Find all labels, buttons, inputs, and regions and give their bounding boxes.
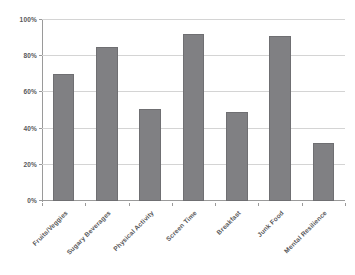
bar-slot [42,20,85,201]
y-axis-tick-label: 20% [23,160,42,167]
bar-slot [215,20,258,201]
x-tick-mark-end [345,203,346,206]
x-tick-mark [302,203,303,206]
x-tick-mark [85,203,86,206]
x-tick-mark [42,203,43,206]
x-tick-mark [258,203,259,206]
x-axis-category: Screen Time [172,203,215,275]
bar-slot [302,20,345,201]
bar[interactable] [183,34,205,201]
x-tick-mark [129,203,130,206]
y-axis-tick-label: 40% [23,124,42,131]
bar-slot [129,20,172,201]
y-axis-tick-label: 100% [20,16,42,23]
bars-group [42,20,345,201]
plot-area: 0%20%40%60%80%100% [42,20,345,201]
bar[interactable] [96,47,118,201]
x-axis-category: Breakfast [215,203,258,275]
bar-slot [85,20,128,201]
bar[interactable] [269,36,291,201]
y-axis-tick-label: 80% [23,52,42,59]
x-tick-mark [172,203,173,206]
bar[interactable] [226,112,248,201]
x-axis-tick-label: Junk Food [256,209,285,238]
y-axis-tick-label: 0% [27,197,42,204]
bar-chart: 0%20%40%60%80%100% Fruits/VeggiesSugary … [0,0,355,275]
x-axis-tick-label: Fruits/Veggies [31,209,69,247]
bar-slot [258,20,301,201]
x-tick-mark [215,203,216,206]
y-axis-tick-label: 60% [23,88,42,95]
x-axis-labels-group: Fruits/VeggiesSugary BeveragesPhysical A… [42,203,345,275]
x-axis-tick-label: Breakfast [215,209,242,236]
bar-slot [172,20,215,201]
bar[interactable] [53,74,75,201]
bar[interactable] [139,109,161,201]
x-axis-category: Mental Resilience [302,203,345,275]
bar[interactable] [313,143,335,201]
